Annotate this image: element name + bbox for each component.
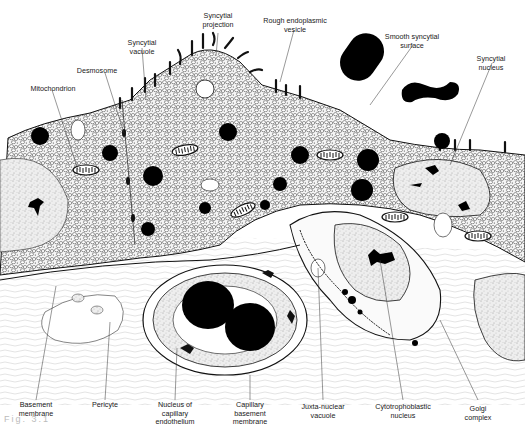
red-cell-2	[225, 303, 275, 351]
label-smooth-syncytial-surface: Smooth syncytial surface	[385, 33, 439, 50]
label-desmosome: Desmosome	[77, 67, 117, 76]
label-golgi-complex: Golgi complex	[465, 405, 492, 422]
label-rough-er-vesicle: Rough endoplasmic vesicle	[263, 17, 327, 34]
vacuole	[196, 80, 214, 98]
figure-caption: Fig. 3.1	[4, 414, 50, 424]
label-mitochondrion: Mitochondrion	[30, 85, 75, 94]
label-pericyte: Pericyte	[92, 401, 118, 410]
villus-illustration	[0, 0, 525, 430]
syncytial-knot-small	[402, 82, 459, 102]
label-capillary-basement-membrane: Capillary basement membrane	[233, 401, 267, 427]
label-juxta-nuclear-vacuole: Juxta-nuclear vacuole	[301, 403, 344, 420]
label-syncytial-nucleus: Syncytial nucleus	[477, 55, 506, 72]
syncytial-knot-large	[333, 26, 391, 88]
label-nucleus-capillary-endothelium: Nucleus of capillary endothelium	[155, 401, 194, 427]
label-syncytial-vacuole: Syncytial vacuole	[128, 39, 157, 56]
label-cytotrophoblastic-nucleus: Cytotrophoblastic nucleus	[375, 403, 431, 420]
label-syncytial-projection: Syncytial projection	[202, 12, 233, 29]
syncytial-nucleus-right	[393, 159, 490, 216]
